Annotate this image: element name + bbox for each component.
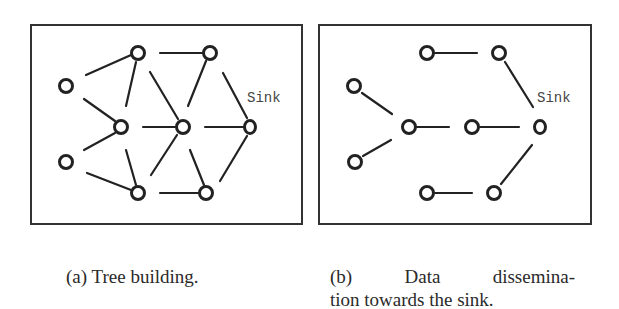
edge-line bbox=[220, 136, 247, 181]
edge-line bbox=[126, 150, 136, 185]
panel-frame bbox=[319, 25, 591, 224]
sensor-node bbox=[177, 121, 190, 134]
sensor-node bbox=[115, 121, 128, 134]
edge-line bbox=[505, 62, 533, 107]
panel-a-tree-building: Sink bbox=[31, 25, 302, 224]
caption-a: (a) Tree building. bbox=[66, 266, 198, 288]
sensor-node bbox=[348, 80, 361, 93]
sensor-node bbox=[132, 47, 145, 60]
edge-line bbox=[190, 150, 204, 185]
sink-node bbox=[535, 121, 546, 134]
sensor-node bbox=[403, 121, 416, 134]
sensor-node bbox=[421, 47, 434, 60]
edge-line bbox=[84, 99, 115, 121]
sink-label: Sink bbox=[247, 90, 281, 106]
sensor-node bbox=[349, 156, 362, 169]
sensor-node bbox=[466, 121, 479, 134]
edge-line bbox=[362, 93, 392, 114]
panel-frame bbox=[31, 25, 302, 224]
edge-line bbox=[223, 73, 247, 118]
figure-diagram: Sink Sink bbox=[0, 0, 619, 309]
sensor-node bbox=[204, 47, 217, 60]
sensor-node bbox=[132, 187, 145, 200]
edge-line bbox=[363, 140, 391, 156]
edge-line bbox=[150, 72, 178, 119]
edge-line bbox=[126, 62, 136, 106]
sensor-node bbox=[60, 156, 73, 169]
sensor-node bbox=[60, 80, 73, 93]
sink-label: Sink bbox=[537, 90, 571, 106]
sensor-node bbox=[493, 47, 506, 60]
caption-b-line1: (b) Data dissemina- bbox=[330, 266, 575, 288]
edge-line bbox=[87, 173, 131, 190]
sensor-node bbox=[200, 187, 213, 200]
sensor-node bbox=[421, 187, 434, 200]
sensor-node bbox=[488, 187, 501, 200]
sink-node bbox=[245, 121, 256, 134]
edge-line bbox=[501, 145, 532, 184]
edge-line bbox=[86, 55, 131, 75]
edge-line bbox=[151, 135, 177, 175]
panel-b-data-dissemination: Sink bbox=[319, 25, 591, 224]
edge-line bbox=[188, 61, 206, 106]
caption-b-line2: tion towards the sink. bbox=[330, 289, 494, 309]
edge-line bbox=[84, 133, 115, 150]
